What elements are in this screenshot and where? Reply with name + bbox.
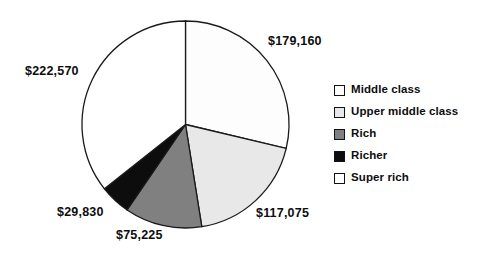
legend-swatch-icon bbox=[334, 129, 345, 140]
legend-item[interactable]: Middle class bbox=[334, 79, 478, 101]
data-label-super-rich: $222,570 bbox=[25, 64, 79, 78]
legend-swatch-icon bbox=[334, 107, 345, 118]
legend-item-label: Upper middle class bbox=[351, 106, 458, 118]
legend-item[interactable]: Super rich bbox=[334, 167, 478, 189]
chart-legend: Middle classUpper middle classRichRicher… bbox=[334, 79, 478, 189]
legend-swatch-icon bbox=[334, 151, 345, 162]
legend-item-label: Super rich bbox=[351, 172, 409, 184]
data-label-richer: $29,830 bbox=[57, 205, 104, 219]
data-label-rich: $75,225 bbox=[116, 228, 163, 242]
legend-item-label: Rich bbox=[351, 128, 376, 140]
legend-item[interactable]: Rich bbox=[334, 123, 478, 145]
pie-chart-figure: $179,160 $117,075 $75,225 $29,830 $222,5… bbox=[0, 0, 478, 262]
data-label-middle-class: $179,160 bbox=[268, 34, 322, 48]
legend-swatch-icon bbox=[334, 173, 345, 184]
legend-swatch-icon bbox=[334, 85, 345, 96]
legend-item[interactable]: Upper middle class bbox=[334, 101, 478, 123]
pie-slice-group bbox=[82, 21, 289, 228]
data-label-upper-middle-class: $117,075 bbox=[256, 206, 309, 220]
legend-item-label: Middle class bbox=[351, 84, 421, 96]
legend-item[interactable]: Richer bbox=[334, 145, 478, 167]
legend-item-label: Richer bbox=[351, 150, 387, 162]
